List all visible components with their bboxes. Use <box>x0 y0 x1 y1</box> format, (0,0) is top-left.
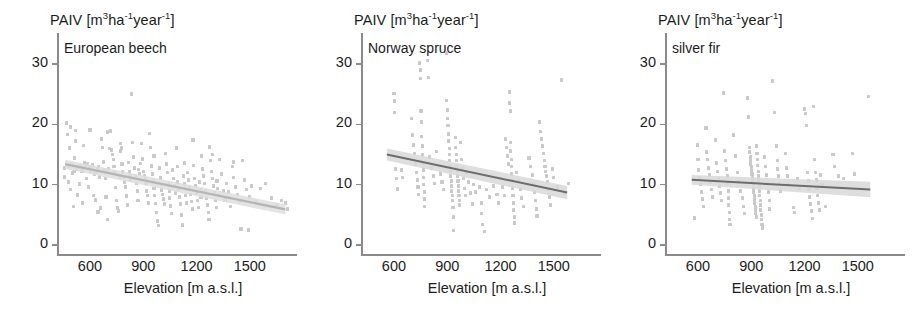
x-axis-title: Elevation [m a.s.l.] <box>58 280 308 296</box>
plot-area <box>58 34 296 254</box>
x-axis-line <box>361 254 601 256</box>
y-tick-label: 20 <box>308 114 352 130</box>
y-tick-mark <box>660 184 665 186</box>
y-tick-mark <box>660 124 665 126</box>
y-tick-mark <box>356 63 361 65</box>
y-tick-mark <box>52 244 57 246</box>
trend-overlay <box>362 34 600 254</box>
y-tick-label: 0 <box>612 235 656 251</box>
x-tick-label: 600 <box>686 258 710 274</box>
y-tick-label: 20 <box>612 114 656 130</box>
x-axis-title: Elevation [m a.s.l.] <box>666 280 916 296</box>
y-tick-mark <box>660 63 665 65</box>
y-tick-label: 20 <box>4 114 48 130</box>
chart-panel-2: PAIV [m3ha-1year-1]silver fir01020306009… <box>612 0 916 312</box>
x-tick-label: 1500 <box>538 258 570 274</box>
y-tick-label: 30 <box>4 54 48 70</box>
x-tick-label: 900 <box>131 258 155 274</box>
x-tick-label: 900 <box>435 258 459 274</box>
y-tick-label: 0 <box>308 235 352 251</box>
y-tick-mark <box>356 184 361 186</box>
trend-overlay <box>58 34 296 254</box>
chart-panel-1: PAIV [m3ha-1year-1]Norway spruce01020306… <box>308 0 612 312</box>
x-tick-label: 900 <box>739 258 763 274</box>
x-tick-label: 1200 <box>180 258 212 274</box>
x-tick-label: 1200 <box>484 258 516 274</box>
x-tick-label: 1500 <box>234 258 266 274</box>
trend-line <box>387 155 567 193</box>
y-tick-label: 10 <box>308 175 352 191</box>
x-tick-label: 600 <box>382 258 406 274</box>
trend-overlay <box>666 34 904 254</box>
y-tick-mark <box>660 244 665 246</box>
y-tick-mark <box>52 63 57 65</box>
plot-area <box>362 34 600 254</box>
y-tick-label: 10 <box>612 175 656 191</box>
chart-panel-0: PAIV [m3ha-1year-1]European beech0102030… <box>4 0 308 312</box>
trend-line <box>65 164 285 209</box>
confidence-band <box>692 175 871 197</box>
y-tick-mark <box>356 124 361 126</box>
figure-panel-row: PAIV [m3ha-1year-1]European beech0102030… <box>0 0 924 312</box>
x-axis-line <box>57 254 297 256</box>
y-tick-mark <box>52 124 57 126</box>
plot-area <box>666 34 904 254</box>
x-tick-label: 1500 <box>842 258 874 274</box>
x-axis-title: Elevation [m a.s.l.] <box>362 280 612 296</box>
panel-axis-title: PAIV [m3ha-1year-1] <box>658 12 783 28</box>
y-tick-label: 10 <box>4 175 48 191</box>
x-axis-line <box>665 254 905 256</box>
y-tick-label: 30 <box>308 54 352 70</box>
panel-axis-title: PAIV [m3ha-1year-1] <box>50 12 175 28</box>
y-tick-label: 0 <box>4 235 48 251</box>
y-tick-mark <box>356 244 361 246</box>
y-tick-label: 30 <box>612 54 656 70</box>
panel-axis-title: PAIV [m3ha-1year-1] <box>354 12 479 28</box>
x-tick-label: 1200 <box>788 258 820 274</box>
y-tick-mark <box>52 184 57 186</box>
x-tick-label: 600 <box>78 258 102 274</box>
